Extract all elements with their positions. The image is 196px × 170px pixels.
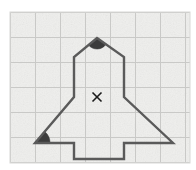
diagram-canvas [0,0,196,170]
geometry-figure [0,0,196,170]
